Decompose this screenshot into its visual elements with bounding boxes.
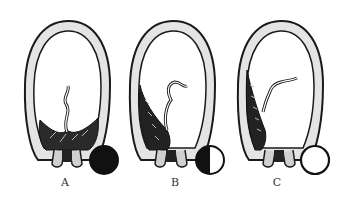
figure-b: B [115, 0, 230, 203]
figure-label-a: A [61, 176, 69, 189]
uterus-diagram-a-icon [0, 0, 130, 203]
uterus-diagram-b-icon [115, 0, 235, 203]
uterus-diagram-c-icon [225, 0, 346, 203]
figure-a: A [0, 0, 115, 203]
figure-label-c: C [273, 176, 281, 189]
figure-label-b: B [171, 176, 179, 189]
empty-circle-icon [301, 146, 329, 174]
figure-c: C [225, 0, 340, 203]
